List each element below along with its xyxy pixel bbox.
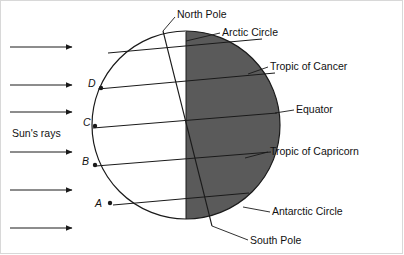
- point-label-a: A: [95, 198, 102, 209]
- label-suns-rays: Sun's rays: [12, 128, 61, 139]
- label-arctic-circle: Arctic Circle: [222, 27, 278, 38]
- point-c-marker: [93, 124, 97, 128]
- label-south-pole: South Pole: [250, 235, 301, 246]
- point-b-marker: [93, 163, 97, 167]
- point-label-c: C: [83, 117, 91, 128]
- point-d-marker: [99, 86, 103, 90]
- diagram-canvas: North Pole Arctic Circle Tropic of Cance…: [0, 0, 404, 255]
- label-north-pole: North Pole: [177, 9, 227, 20]
- leader-antarctic-circle: [243, 207, 270, 212]
- label-antarctic-circle: Antarctic Circle: [272, 206, 343, 217]
- point-a-marker: [108, 201, 112, 205]
- leader-south-pole: [212, 226, 248, 240]
- point-label-b: B: [82, 156, 89, 167]
- label-tropic-of-cancer: Tropic of Cancer: [270, 61, 347, 72]
- leader-north-pole: [163, 17, 175, 31]
- point-label-d: D: [88, 78, 96, 89]
- label-equator: Equator: [296, 104, 333, 115]
- label-tropic-of-capricorn: Tropic of Capricorn: [270, 146, 359, 157]
